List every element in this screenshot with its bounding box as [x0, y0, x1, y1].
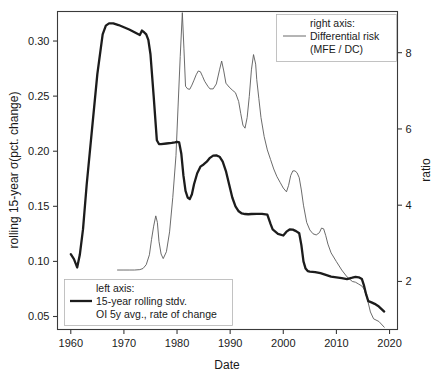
chart-figure: 1960197019801990200020102020 0.050.100.1…: [0, 0, 439, 376]
legend-right-axis-header: right axis:: [310, 17, 355, 29]
x-tick-label-2010: 2010: [324, 337, 348, 349]
legend-right-axis-label-line2: (MFE / DC): [310, 43, 363, 55]
legend-right-axis-label-line1: Differential risk: [310, 30, 380, 42]
y-left-tick-label-0.20: 0.20: [28, 145, 49, 157]
y-axis-left-title: rolling 15-year σ(pct. change): [7, 92, 21, 249]
y-left-tick-label-0.15: 0.15: [28, 200, 49, 212]
legend-left-axis-label-line2: OI 5y avg., rate of change: [96, 308, 217, 320]
y-right-tick-label-2: 2: [406, 275, 412, 287]
legend-right-axis[interactable]: right axis: Differential risk (MFE / DC): [277, 15, 397, 62]
y-left-tick-label-0.10: 0.10: [28, 255, 49, 267]
x-tick-label-1990: 1990: [218, 337, 242, 349]
x-tick-label-2000: 2000: [271, 337, 295, 349]
y-left-tick-label-0.25: 0.25: [28, 90, 49, 102]
x-tick-label-1960: 1960: [59, 337, 83, 349]
chart-canvas: 1960197019801990200020102020 0.050.100.1…: [0, 0, 439, 376]
x-tick-label-1970: 1970: [112, 337, 136, 349]
x-axis-title: Date: [214, 358, 240, 372]
y-right-tick-label-6: 6: [406, 123, 412, 135]
y-axis-right-title: ratio: [419, 158, 433, 182]
y-right-tick-label-8: 8: [406, 47, 412, 59]
x-tick-label-1980: 1980: [165, 337, 189, 349]
y-left-tick-label-0.05: 0.05: [28, 310, 49, 322]
legend-left-axis-header: left axis:: [96, 282, 135, 294]
x-tick-label-2020: 2020: [377, 337, 401, 349]
legend-left-axis[interactable]: left axis: 15-year rolling stdv. OI 5y a…: [65, 280, 233, 326]
y-right-tick-label-4: 4: [406, 199, 412, 211]
y-left-tick-label-0.30: 0.30: [28, 35, 49, 47]
legend-left-axis-label-line1: 15-year rolling stdv.: [96, 295, 187, 307]
